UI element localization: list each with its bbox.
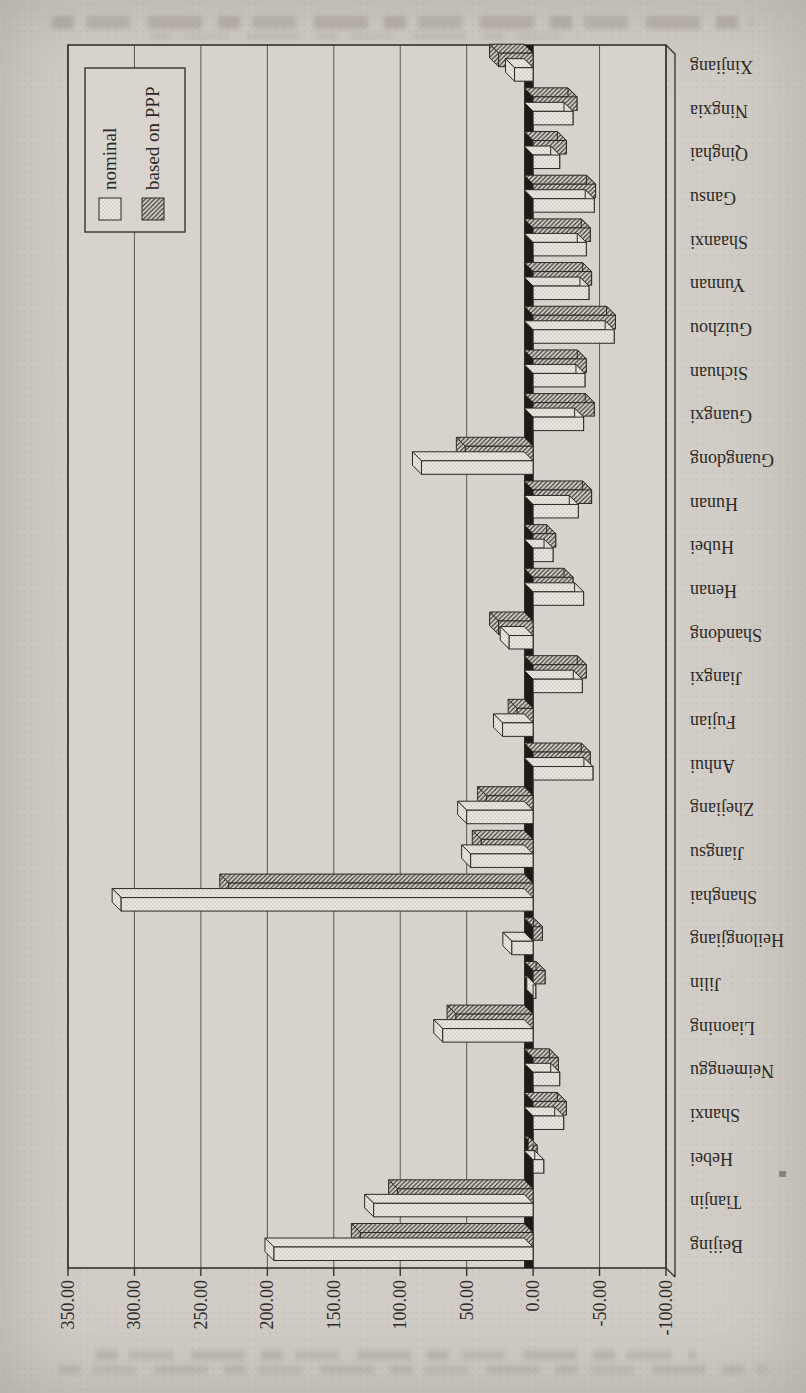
category-label-Jiangxi: Jiangxi [690,668,742,688]
value-tick-label: 50.00 [457,1280,477,1321]
category-label-Tianjin: Tianjin [690,1192,741,1212]
category-label-Shanxi: Shanxi [690,1105,740,1125]
value-tick-label: -100.00 [656,1280,676,1336]
value-tick-label: -50.00 [590,1280,610,1327]
bar-nominal-Gansu [524,190,594,213]
category-label-Ningxia: Ningxia [690,101,748,121]
rotated-chart-container: 350.00300.00250.00200.00150.00100.0050.0… [0,0,806,1393]
legend-label-nominal: nominal [99,128,120,190]
scanned-page: 350.00300.00250.00200.00150.00100.0050.0… [0,0,806,1393]
value-tick-label: 350.00 [58,1280,78,1330]
bar-nominal-Shaanxi [524,233,586,256]
bar-nominal-Henan [524,583,583,606]
category-label-Zhejiang: Zhejiang [690,799,754,819]
category-label-Shanghai: Shanghai [690,887,757,907]
category-label-Jiangsu: Jiangsu [690,843,744,863]
category-label-Anhui: Anhui [690,756,735,776]
category-label-Neimenggu: Neimenggu [690,1061,774,1081]
bar-nominal-Guizhou [524,321,614,344]
category-label-Sichuan: Sichuan [690,363,748,383]
category-label-Hubei: Hubei [690,537,734,557]
legend-swatch-ppp [142,198,164,220]
bar-nominal-Fujian [494,714,534,737]
legend: nominalbased on PPP [85,68,185,232]
category-label-Qinghai: Qinghai [690,144,748,164]
category-label-Beijing: Beijing [690,1236,743,1256]
category-label-Guizhou: Guizhou [690,319,752,339]
category-label-Gansu: Gansu [690,188,736,208]
category-label-Fujian: Fujian [690,712,736,732]
value-tick-label: 200.00 [257,1280,277,1330]
value-tick-label: 0.00 [523,1280,543,1312]
value-tick-label: 100.00 [390,1280,410,1330]
bar-nominal-Liaoning [434,1020,533,1043]
category-label-Jilin: Jilin [690,974,721,994]
bar-nominal-Zhejiang [458,801,533,824]
bar-nominal-Guangxi [524,408,583,431]
bar-nominal-Jiangxi [524,670,582,693]
legend-swatch-nominal [99,198,121,220]
category-label-Shaanxi: Shaanxi [690,232,748,252]
bar-nominal-Shandong [500,627,533,650]
value-tick-label: 150.00 [324,1280,344,1330]
bar-chart-svg: 350.00300.00250.00200.00150.00100.0050.0… [0,0,806,1393]
floor-3d-edge [666,45,675,1277]
category-label-Henan: Henan [690,581,737,601]
value-tick-label: 250.00 [191,1280,211,1330]
category-label-Hebei: Hebei [690,1149,733,1169]
bar-nominal-Guangdong [412,452,533,475]
bar-nominal-Yunnan [524,277,589,300]
category-label-Liaoning: Liaoning [690,1018,755,1038]
legend-label-ppp: based on PPP [142,87,163,190]
bar-nominal-Beijing [265,1238,533,1261]
bar-nominal-Jiangsu [462,845,533,868]
category-label-Guangdong: Guangdong [690,450,774,470]
bar-nominal-Shanghai [112,889,533,912]
category-label-Xinjiang: Xinjiang [690,57,753,77]
category-label-Yunnan: Yunnan [690,275,745,295]
value-tick-label: 300.00 [124,1280,144,1330]
category-label-Guangxi: Guangxi [690,406,752,426]
category-label-Hunan: Hunan [690,494,738,514]
category-label-Heilongjiang: Heilongjiang [690,930,784,950]
bar-nominal-Tianjin [365,1194,533,1217]
bar-nominal-Sichuan [524,364,585,387]
bar-nominal-Anhui [524,758,593,781]
category-label-Shandong: Shandong [690,625,762,645]
